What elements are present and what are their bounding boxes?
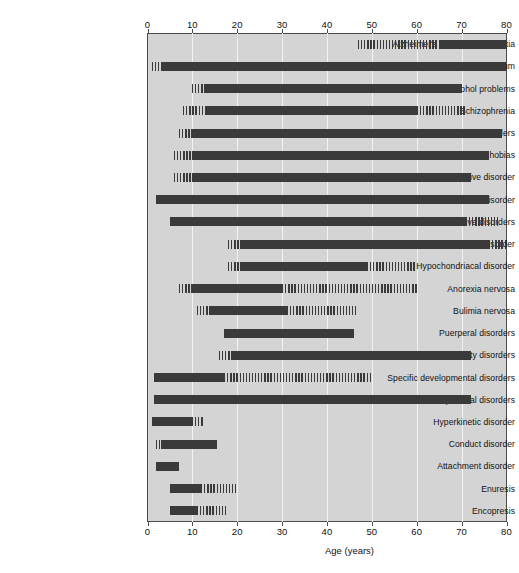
x-tick-label-bottom-0: 0 — [145, 526, 150, 537]
x-tick-mark-bottom-30 — [282, 522, 283, 526]
bar-segment-hatch — [367, 262, 416, 271]
bar-segment-solid — [170, 484, 201, 493]
bar-segment-solid — [192, 129, 502, 138]
bar-segment-hatch — [417, 106, 466, 115]
x-tick-mark-bottom-20 — [237, 522, 238, 526]
bar-segment-hatch — [197, 506, 226, 515]
bar-segment-hatch — [183, 106, 205, 115]
age-of-onset-chart: 0010102020303040405050606070708080 Alzhe… — [0, 0, 519, 573]
bar-segment-hatch — [358, 40, 439, 49]
bar-segment-hatch — [228, 262, 241, 271]
x-tick-mark-bottom-50 — [372, 522, 373, 526]
bar-row — [0, 84, 519, 93]
x-tick-label-bottom-10: 10 — [187, 526, 198, 537]
bar-segment-solid — [224, 329, 354, 338]
bar-segment-solid — [161, 62, 507, 71]
x-tick-mark-top-50 — [372, 29, 373, 33]
x-tick-label-bottom-60: 60 — [411, 526, 422, 537]
x-tick-label-bottom-30: 30 — [277, 526, 288, 537]
bar-segment-solid — [156, 195, 488, 204]
bar-segment-solid — [156, 462, 178, 471]
bar-segment-solid — [152, 417, 192, 426]
x-axis-title-text: Age (years) — [145, 545, 374, 556]
x-tick-mark-top-20 — [237, 29, 238, 33]
bar-row — [0, 440, 519, 449]
bar-row — [0, 62, 519, 71]
bar-segment-hatch — [224, 373, 372, 382]
bar-row — [0, 306, 519, 315]
x-tick-mark-top-40 — [327, 29, 328, 33]
bar-row — [0, 417, 519, 426]
bar-segment-hatch — [287, 306, 359, 315]
bar-row — [0, 129, 519, 138]
bar-row — [0, 373, 519, 382]
bar-segment-hatch — [197, 306, 210, 315]
x-tick-mark-bottom-10 — [192, 522, 193, 526]
x-tick-mark-top-80 — [507, 29, 508, 33]
x-tick-label-bottom-70: 70 — [456, 526, 467, 537]
x-tick-mark-bottom-40 — [327, 522, 328, 526]
bar-segment-solid — [192, 173, 470, 182]
x-axis-title: Age (years) — [0, 545, 519, 556]
bar-row — [0, 395, 519, 404]
x-tick-mark-top-60 — [417, 29, 418, 33]
bar-segment-hatch — [489, 240, 507, 249]
bar-row — [0, 284, 519, 293]
bar-row — [0, 173, 519, 182]
bar-segment-hatch — [192, 417, 203, 426]
bar-segment-hatch — [179, 284, 192, 293]
bar-segment-hatch — [179, 129, 192, 138]
x-tick-mark-top-10 — [192, 29, 193, 33]
bar-segment-hatch — [201, 484, 237, 493]
x-tick-mark-bottom-60 — [417, 522, 418, 526]
bar-segment-hatch — [152, 62, 161, 71]
x-tick-label-bottom-20: 20 — [232, 526, 243, 537]
bar-segment-solid — [192, 151, 488, 160]
bar-row — [0, 106, 519, 115]
x-tick-mark-top-0 — [148, 29, 149, 33]
bar-segment-hatch — [282, 284, 417, 293]
bar-row — [0, 151, 519, 160]
bar-segment-solid — [439, 40, 506, 49]
bar-row — [0, 217, 519, 226]
x-tick-mark-top-30 — [282, 29, 283, 33]
x-tick-label-bottom-50: 50 — [366, 526, 377, 537]
bar-row — [0, 240, 519, 249]
bar-row — [0, 462, 519, 471]
bar-segment-hatch — [228, 240, 241, 249]
bar-segment-solid — [206, 106, 417, 115]
bar-segment-hatch — [174, 173, 192, 182]
x-tick-mark-top-70 — [462, 29, 463, 33]
bar-segment-solid — [242, 240, 489, 249]
bar-segment-solid — [170, 217, 466, 226]
bar-segment-solid — [206, 84, 462, 93]
x-tick-label-bottom-40: 40 — [322, 526, 333, 537]
bar-segment-solid — [233, 351, 471, 360]
bar-segment-hatch — [219, 351, 232, 360]
bar-segment-solid — [242, 262, 368, 271]
bar-segment-solid — [161, 440, 217, 449]
bar-segment-solid — [154, 373, 224, 382]
bar-segment-solid — [210, 306, 286, 315]
bar-row — [0, 40, 519, 49]
x-tick-mark-bottom-80 — [507, 522, 508, 526]
x-tick-label-bottom-80: 80 — [501, 526, 512, 537]
bar-segment-hatch — [174, 151, 192, 160]
bar-row — [0, 195, 519, 204]
x-tick-mark-bottom-70 — [462, 522, 463, 526]
bar-segment-solid — [192, 284, 282, 293]
bar-row — [0, 351, 519, 360]
bar-row — [0, 484, 519, 493]
bar-segment-hatch — [466, 217, 497, 226]
bar-segment-solid — [170, 506, 197, 515]
bar-segment-solid — [154, 395, 470, 404]
bar-row — [0, 262, 519, 271]
bar-segment-hatch — [192, 84, 205, 93]
bar-row — [0, 329, 519, 338]
bar-row — [0, 506, 519, 515]
x-tick-mark-bottom-0 — [148, 522, 149, 526]
